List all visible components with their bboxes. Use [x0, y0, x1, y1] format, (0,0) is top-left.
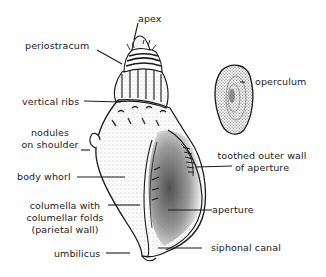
label-toothed-line2: of aperture	[212, 162, 312, 174]
label-columella: columella with columellar folds (parieta…	[24, 200, 106, 236]
label-nodules-line1: nodules	[18, 127, 82, 139]
label-columella-line1: columella with	[24, 200, 106, 212]
shell-spire	[114, 36, 168, 108]
label-nodules-on-shoulder: nodules on shoulder	[18, 127, 82, 151]
label-toothed-line1: toothed outer wall	[212, 150, 312, 162]
label-columella-line2: columellar folds	[24, 212, 106, 224]
label-vertical-ribs: vertical ribs	[22, 96, 79, 108]
label-nodules-line2: on shoulder	[18, 139, 82, 151]
label-columella-line3: (parietal wall)	[24, 224, 106, 236]
label-apex: apex	[138, 13, 162, 25]
label-umbilicus: umbilicus	[54, 248, 100, 260]
label-body-whorl: body whorl	[17, 171, 71, 183]
label-toothed-outer-wall: toothed outer wall of aperture	[212, 150, 312, 174]
label-periostracum: periostracum	[25, 40, 89, 52]
operculum-drawing	[215, 65, 253, 134]
shell-body	[90, 100, 206, 261]
shell-diagram: apex periostracum vertical ribs nodules …	[0, 0, 326, 277]
label-aperture: aperture	[212, 204, 254, 216]
label-siphonal-canal: siphonal canal	[211, 242, 281, 254]
label-operculum: operculum	[255, 76, 306, 88]
